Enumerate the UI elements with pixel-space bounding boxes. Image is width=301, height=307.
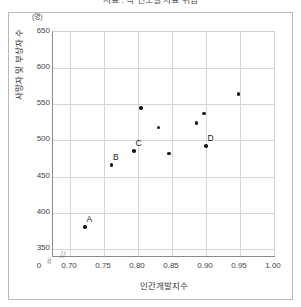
- chart-title: 자료 : 각 연도별 자료 취합: [0, 0, 301, 6]
- gridline-horizontal: [53, 249, 274, 250]
- gridline-vertical: [104, 32, 105, 256]
- x-tick-label: 0.95: [222, 261, 256, 270]
- x-axis-tick-labels: 0.700.750.800.850.900.951.00: [52, 261, 275, 273]
- data-point: [132, 149, 136, 153]
- y-tick-label: 550: [20, 99, 50, 107]
- x-tick-label: 0.75: [86, 261, 120, 270]
- gridline-horizontal: [53, 104, 274, 105]
- x-tick-label: 1.00: [256, 261, 290, 270]
- x-tick-label: 0.85: [154, 261, 188, 270]
- x-axis-break-icon: //: [60, 250, 66, 260]
- y-axis-break-icon: ≈: [44, 258, 54, 264]
- x-tick-label: 0.80: [120, 261, 154, 270]
- y-axis-title: 사망자 및 부상자 수: [14, 10, 24, 100]
- gridline-horizontal: [53, 140, 274, 141]
- gridline-vertical: [172, 32, 173, 256]
- x-axis-line: [52, 256, 275, 257]
- gridline-vertical: [70, 32, 71, 256]
- plot-area: ABCD: [52, 31, 275, 256]
- data-point: [167, 152, 171, 156]
- y-tick-label: 600: [20, 63, 50, 71]
- y-tick-label: 500: [20, 135, 50, 143]
- data-point: [83, 225, 87, 229]
- figure-container: 자료 : 각 연도별 자료 취합 (명) ABCD 35040045050055…: [0, 0, 301, 307]
- y-tick-label: 350: [20, 244, 50, 252]
- gridline-vertical: [240, 32, 241, 256]
- data-point-label: B: [113, 153, 119, 162]
- x-axis-title: 인간개발지수: [52, 281, 275, 291]
- gridline-horizontal: [53, 177, 274, 178]
- y-axis-unit-label: (명): [32, 13, 43, 21]
- data-point: [204, 144, 208, 148]
- y-tick-label: 650: [20, 27, 50, 35]
- x-tick-label: 0.70: [52, 261, 86, 270]
- gridline-horizontal: [53, 68, 274, 69]
- x-tick-label: 0.90: [188, 261, 222, 270]
- data-point-label: A: [86, 215, 92, 224]
- y-tick-label: 400: [20, 208, 50, 216]
- data-point: [110, 163, 114, 167]
- data-point: [139, 106, 143, 110]
- gridline-vertical: [274, 32, 275, 256]
- data-point-label: C: [135, 139, 141, 148]
- data-point-label: D: [208, 134, 214, 143]
- data-point: [157, 126, 161, 130]
- y-tick-label: 450: [20, 172, 50, 180]
- data-point: [195, 121, 199, 125]
